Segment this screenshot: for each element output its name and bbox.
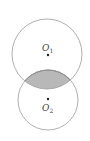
center-dot-o1 <box>47 54 49 56</box>
two-circles-diagram: O1 O2 <box>0 0 90 141</box>
label-o2: O2 <box>42 103 53 114</box>
label-o1: O1 <box>42 43 53 54</box>
center-dot-o2 <box>47 98 49 100</box>
